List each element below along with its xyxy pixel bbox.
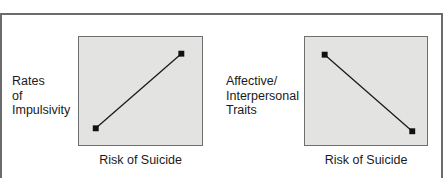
left-y-label-line-1: Rates — [12, 74, 70, 89]
right-plot-area — [304, 36, 428, 146]
right-data-point-low — [409, 128, 415, 134]
left-data-point-low — [93, 125, 99, 131]
right-trend-line — [325, 55, 413, 132]
right-data-point-high — [322, 52, 328, 58]
left-y-label-line-3: Impulsivity — [12, 103, 70, 118]
right-y-label-line-3: Traits — [226, 103, 299, 118]
left-data-point-high — [178, 51, 184, 57]
right-y-axis-label: Affective/ Interpersonal Traits — [226, 74, 299, 118]
left-x-axis-label: Risk of Suicide — [78, 153, 203, 167]
right-x-axis-label: Risk of Suicide — [304, 153, 428, 167]
left-trend-line-graphic — [79, 37, 202, 145]
right-y-label-line-2: Interpersonal — [226, 89, 299, 104]
right-y-label-line-1: Affective/ — [226, 74, 299, 89]
right-trend-line-graphic — [305, 37, 427, 145]
left-plot-area — [78, 36, 203, 146]
left-trend-line — [96, 54, 182, 129]
left-y-label-line-2: of — [12, 89, 70, 104]
left-y-axis-label: Rates of Impulsivity — [12, 74, 70, 118]
